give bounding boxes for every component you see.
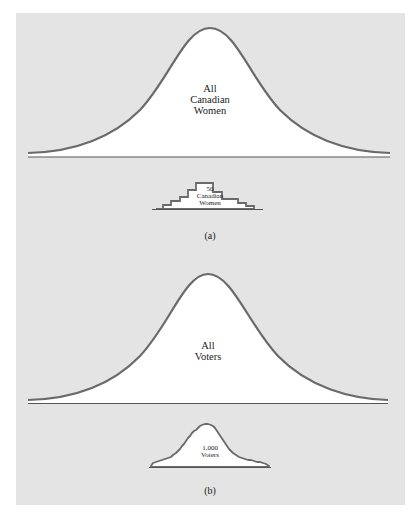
label-line: All [168, 340, 248, 351]
label-line: Canadian [170, 94, 250, 105]
label-line: Voters [168, 351, 248, 362]
sample-label-b: 1,000 Voters [185, 445, 235, 459]
label-line: Voters [185, 452, 235, 459]
label-line: Women [170, 105, 250, 116]
population-curve-b [28, 274, 388, 404]
sample-label-a: 50 Canadian Women [185, 186, 235, 207]
population-label-b: All Voters [168, 340, 248, 362]
caption-a: (a) [190, 231, 230, 242]
distribution-diagram [0, 0, 417, 515]
population-label-a: All Canadian Women [170, 83, 250, 116]
caption-b: (b) [190, 486, 230, 497]
label-line: All [170, 83, 250, 94]
label-line: Women [185, 200, 235, 207]
